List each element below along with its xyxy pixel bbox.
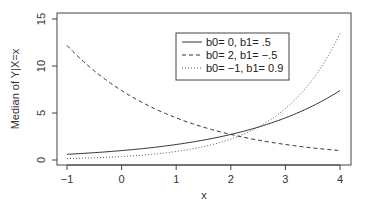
x-axis: −101234 bbox=[61, 165, 343, 185]
y-tick-label: 5 bbox=[35, 110, 47, 116]
x-tick-label: 2 bbox=[228, 173, 234, 185]
y-tick-label: 10 bbox=[35, 60, 47, 72]
y-axis-label: Median of Y|X=x bbox=[9, 48, 21, 129]
x-tick-label: 3 bbox=[282, 173, 288, 185]
y-axis: 051015 bbox=[35, 13, 57, 163]
y-tick-label: 15 bbox=[35, 13, 47, 25]
x-tick-label: 4 bbox=[337, 173, 343, 185]
legend-label: b0= −1, b1= 0.9 bbox=[206, 62, 283, 74]
chart: −101234 051015 x Median of Y|X=x b0= 0, … bbox=[0, 0, 367, 211]
legend: b0= 0, b1= .5b0= 2, b1= −.5b0= −1, b1= 0… bbox=[176, 33, 289, 80]
y-tick-label: 0 bbox=[35, 157, 47, 163]
legend-label: b0= 2, b1= −.5 bbox=[206, 49, 277, 61]
x-tick-label: 0 bbox=[119, 173, 125, 185]
legend-label: b0= 0, b1= .5 bbox=[206, 36, 271, 48]
x-axis-label: x bbox=[201, 189, 207, 201]
series-line-1 bbox=[67, 91, 340, 155]
x-tick-label: 1 bbox=[173, 173, 179, 185]
x-tick-label: −1 bbox=[61, 173, 74, 185]
